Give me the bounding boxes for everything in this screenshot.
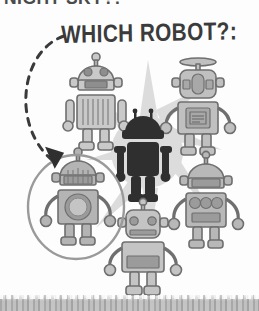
robot-bottom-center xyxy=(105,198,182,295)
page-bottom-texture xyxy=(0,295,259,311)
illustration-page: NIGHT SKY?: WHICH ROBOT?: xyxy=(0,0,259,311)
dashed-curved-arrow xyxy=(26,36,64,170)
robot-scene xyxy=(0,0,259,311)
